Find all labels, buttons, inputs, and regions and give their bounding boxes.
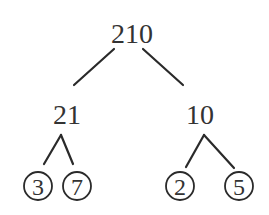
prime-value: 7 [71, 174, 83, 200]
prime-value: 2 [174, 174, 186, 200]
edge-10-5 [204, 135, 234, 168]
root-node: 210 [111, 18, 153, 49]
edge-21-3 [44, 135, 61, 164]
factor-tree-canvas: 210 21 10 3 7 2 5 [0, 0, 269, 215]
edge-21-7 [61, 135, 73, 164]
edge-root-left [74, 49, 114, 85]
edge-10-2 [186, 135, 204, 167]
node-10: 10 [186, 99, 214, 130]
prime-node-3: 3 [24, 172, 52, 200]
factor-tree-diagram: 210 21 10 3 7 2 5 [0, 0, 269, 215]
prime-node-5: 5 [225, 172, 253, 200]
prime-value: 5 [233, 174, 245, 200]
prime-node-7: 7 [63, 172, 91, 200]
edge-root-right [143, 49, 183, 85]
node-21: 21 [53, 99, 81, 130]
prime-node-2: 2 [166, 172, 194, 200]
prime-value: 3 [32, 174, 44, 200]
